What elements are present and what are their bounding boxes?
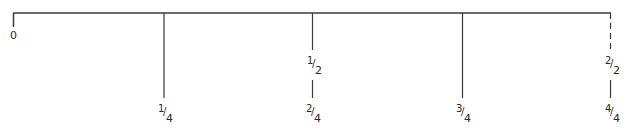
label-zero: 0 xyxy=(10,29,17,42)
denominator: 4 xyxy=(613,113,620,124)
denominator: 2 xyxy=(613,65,620,76)
denominator: 4 xyxy=(166,113,173,124)
denominator: 2 xyxy=(315,65,322,76)
denominator: 4 xyxy=(464,113,471,124)
denominator: 4 xyxy=(314,113,321,124)
